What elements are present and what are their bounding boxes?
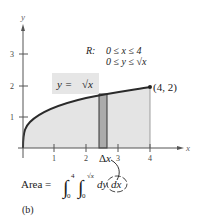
outer-lower-limit: 0 xyxy=(67,192,71,200)
y-tick-label-3: 3 xyxy=(10,50,14,59)
representative-strip xyxy=(99,94,107,148)
outer-upper-limit: 4 xyxy=(71,172,75,180)
area-lhs: Area = xyxy=(21,178,51,190)
region-line1: 0 ≤ x ≤ 4 xyxy=(106,45,141,56)
delta-x-label: Δx xyxy=(99,152,111,164)
figure-diagram: y x 1 2 3 1 2 3 4 Δx y = √x (4, 2) R: 0 … xyxy=(0,0,198,216)
x-tick-label-1: 1 xyxy=(52,154,56,163)
region-fill xyxy=(23,87,150,148)
figure-caption: (b) xyxy=(22,204,34,216)
differential-dx: dx xyxy=(111,178,122,190)
curve-label-lhs: y = xyxy=(56,78,72,90)
integrand-dy: dy xyxy=(97,178,108,190)
region-line2: 0 ≤ y ≤ √x xyxy=(106,56,147,67)
x-tick-label-4: 4 xyxy=(148,154,152,163)
inner-upper-limit: √x xyxy=(87,172,95,180)
y-tick-label-1: 1 xyxy=(10,113,14,122)
region-prefix: R: xyxy=(85,45,95,56)
y-axis-arrow-icon xyxy=(21,24,25,31)
endpoint-label: (4, 2) xyxy=(153,81,177,94)
endpoint-dot xyxy=(148,85,152,89)
y-tick-label-2: 2 xyxy=(10,82,14,91)
x-axis-label: x xyxy=(185,143,190,153)
x-axis-arrow-icon xyxy=(177,146,184,150)
y-axis-label: y xyxy=(20,12,25,22)
curve-label-rhs: √x xyxy=(82,78,93,90)
inner-lower-limit: 0 xyxy=(82,192,86,200)
x-tick-label-3: 3 xyxy=(116,154,120,163)
x-tick-label-2: 2 xyxy=(84,154,88,163)
